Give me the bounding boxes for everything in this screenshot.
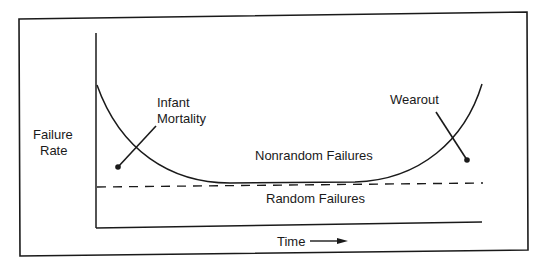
- wearout-pointer: [436, 112, 467, 160]
- bathtub-diagram: Failure Rate Infant Mortality Wearout No…: [0, 0, 546, 269]
- infant-label-line2: Mortality: [157, 111, 207, 126]
- infant-label-line1: Infant: [157, 95, 190, 110]
- nonrandom-failures-label: Nonrandom Failures: [255, 148, 373, 163]
- infant-mortality-dot: [115, 164, 121, 170]
- wearout-dot: [464, 157, 470, 163]
- x-axis: [96, 222, 482, 228]
- y-axis-label-line1: Failure: [33, 127, 73, 142]
- y-axis-label-line2: Rate: [40, 143, 67, 158]
- random-failures-line: [97, 183, 483, 187]
- random-failures-label: Random Failures: [266, 191, 365, 206]
- x-axis-label: Time: [277, 234, 305, 249]
- infant-mortality-pointer: [118, 126, 156, 167]
- arrow-right-icon: [337, 238, 348, 244]
- wearout-label: Wearout: [390, 92, 439, 107]
